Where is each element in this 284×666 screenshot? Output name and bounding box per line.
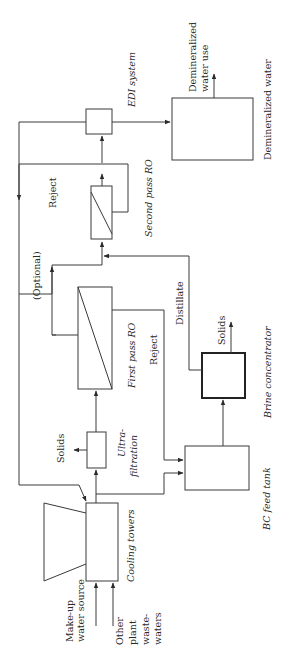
cooling-towers-unit — [44, 503, 118, 581]
label-second-pass-ro: Second pass RO — [143, 159, 154, 237]
label-bc-feed-tank: BC feed tank — [261, 467, 272, 531]
label-other-1: Other — [114, 617, 125, 645]
label-cooling-towers: Cooling towers — [125, 509, 136, 582]
label-uf-solids: Solids — [55, 434, 66, 463]
flow-ro1-permeate — [19, 294, 78, 335]
label-demin-use-1: Demineralized — [187, 22, 198, 92]
demineralized-water-tank — [172, 98, 253, 160]
label-optional: (Optional) — [31, 251, 42, 300]
label-distillate: Distillate — [174, 281, 185, 325]
flow-to-ro2 — [52, 242, 102, 294]
label-other-2: plant — [127, 620, 138, 645]
label-demin-use-2: water use — [199, 44, 210, 92]
label-other-3: waste- — [140, 614, 151, 645]
label-ro1-reject: Reject — [148, 334, 159, 365]
label-makeup-1: Make-up — [64, 600, 75, 642]
label-ultrafiltration-1: Ultra- — [116, 429, 127, 457]
label-makeup-2: water source — [75, 579, 86, 642]
first-pass-ro-unit — [78, 287, 112, 389]
label-ultrafiltration-2: filtration — [128, 435, 139, 478]
edi-system-box — [86, 109, 112, 134]
label-bc-solids: Solids — [216, 316, 227, 345]
brine-concentrator-box — [202, 353, 245, 398]
label-demin-water: Demineralized water — [262, 59, 273, 160]
bc-feed-tank-box — [185, 446, 249, 490]
label-edi-system: EDI system — [126, 52, 137, 108]
label-other-4: waters — [152, 612, 163, 645]
ultrafiltration-box — [87, 432, 106, 468]
label-brine-concentrator: Brine concentrator — [262, 325, 273, 419]
label-first-pass-ro: First pass RO — [126, 322, 137, 389]
process-flow-diagram: EDI system Demineralized water use Demin… — [0, 0, 284, 666]
second-pass-ro-unit — [91, 186, 112, 239]
flow-ct-to-bcfeed — [96, 473, 183, 494]
label-ro2-reject: Reject — [47, 177, 58, 208]
